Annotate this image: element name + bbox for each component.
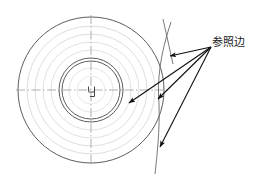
leader-arrow-4	[160, 47, 211, 147]
center-keyway-mark	[89, 87, 95, 97]
leader-arrow-group	[129, 47, 211, 147]
figure-canvas: 参照边	[0, 0, 257, 176]
reference-edge-label: 参照边	[212, 36, 245, 49]
technical-drawing	[0, 0, 257, 176]
leader-arrow-3	[158, 47, 211, 99]
leader-arrow-2	[129, 47, 211, 103]
upper-reference-line	[163, 19, 173, 64]
